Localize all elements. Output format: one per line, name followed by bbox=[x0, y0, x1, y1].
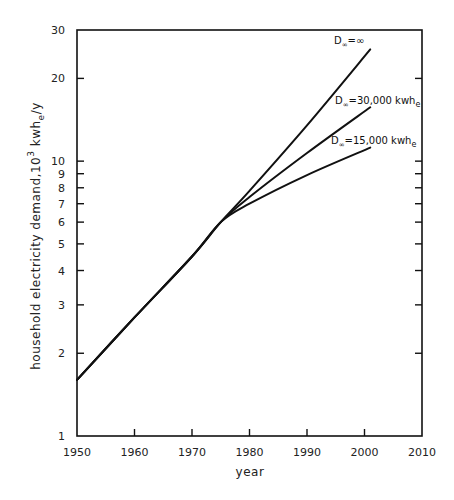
y-tick-label: 3 bbox=[58, 299, 65, 312]
y-tick-label: 8 bbox=[58, 182, 65, 195]
x-tick-label: 1960 bbox=[121, 446, 149, 459]
y-axis-title-tail: /y bbox=[29, 102, 43, 114]
y-tick-label: 6 bbox=[58, 216, 65, 229]
y-axis-ticks: 123456789102030 bbox=[51, 24, 422, 443]
series-line-0 bbox=[77, 49, 370, 379]
y-tick-label: 20 bbox=[51, 72, 65, 85]
y-tick-label: 9 bbox=[58, 168, 65, 181]
x-axis-title: year bbox=[236, 465, 265, 479]
x-tick-label: 1990 bbox=[293, 446, 321, 459]
series-line-2 bbox=[77, 148, 370, 380]
y-tick-label: 2 bbox=[58, 347, 65, 360]
y-axis-title-unit: kwh bbox=[29, 120, 43, 150]
y-tick-label: 10 bbox=[51, 155, 65, 168]
y-tick-label: 7 bbox=[58, 198, 65, 211]
x-tick-label: 2000 bbox=[351, 446, 379, 459]
x-axis-ticks: 1950196019701980199020002010 bbox=[63, 429, 436, 459]
y-tick-label: 4 bbox=[58, 265, 65, 278]
x-tick-label: 1970 bbox=[178, 446, 206, 459]
y-axis-title: household electricity demand,103 kwhe/y bbox=[26, 102, 46, 370]
y-tick-label: 30 bbox=[51, 24, 65, 37]
series-label-1: D∞=30,000 kwhe bbox=[335, 95, 420, 109]
chart: 123456789102030 195019601970198019902000… bbox=[0, 0, 454, 500]
series-label-0: D∞=∞ bbox=[334, 35, 364, 49]
y-tick-label: 1 bbox=[58, 430, 65, 443]
series-lines bbox=[77, 49, 370, 379]
x-tick-label: 1950 bbox=[63, 446, 91, 459]
plot-border bbox=[77, 30, 422, 436]
series-labels: D∞=∞D∞=30,000 kwheD∞=15,000 kwhe bbox=[331, 35, 420, 149]
plot-frame bbox=[77, 30, 422, 436]
y-axis-title-main: household electricity demand,10 bbox=[29, 157, 43, 370]
x-tick-label: 1980 bbox=[236, 446, 264, 459]
series-line-1 bbox=[77, 107, 370, 380]
x-tick-label: 2010 bbox=[408, 446, 436, 459]
y-tick-label: 5 bbox=[58, 238, 65, 251]
series-label-2: D∞=15,000 kwhe bbox=[331, 135, 416, 149]
